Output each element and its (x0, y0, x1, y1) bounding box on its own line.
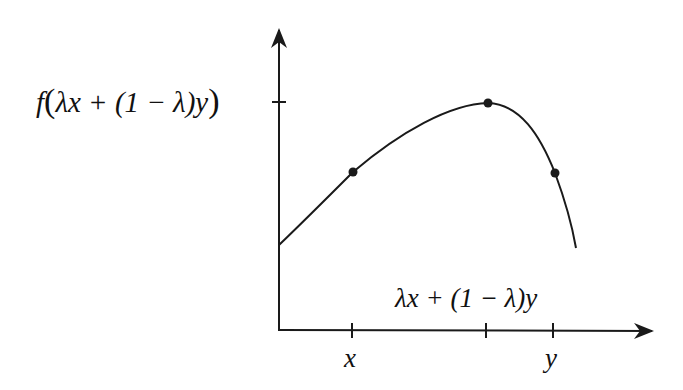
x-axis (278, 330, 652, 331)
point-x (349, 168, 358, 177)
point-y (551, 169, 560, 178)
y-label-inner: λx + (1 − λ)y (55, 86, 208, 118)
x-mid-label: λx + (1 − λ)y (395, 283, 537, 314)
y-label-open: ( (44, 82, 55, 119)
function-curve (279, 103, 576, 248)
y-label-f: f (36, 86, 44, 118)
diagram-canvas (0, 0, 683, 390)
y-value-label: f(λx + (1 − λ)y) (36, 82, 220, 120)
x-tick-label-y: y (545, 343, 557, 374)
y-label-close: ) (208, 82, 219, 119)
point-mid (484, 99, 493, 108)
x-tick-label-x: x (344, 343, 356, 374)
